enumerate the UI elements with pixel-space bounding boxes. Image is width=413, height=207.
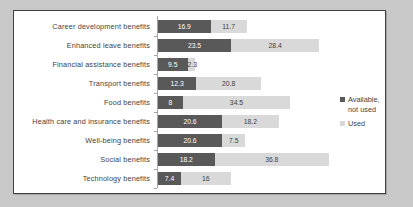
category-label: Financial assistance benefits [14,55,150,74]
bar-value-label: 9.5 [158,58,188,71]
bar-value-label: 16.9 [158,20,211,33]
axis-tick [154,36,157,37]
axis-tick [154,112,157,113]
bar-value-label: 11.7 [211,20,247,33]
bar-segment-used[interactable]: 36.8 [215,153,329,166]
bar-value-label: 7.5 [222,134,245,147]
category-label: Transport benefits [14,74,150,93]
legend-item[interactable]: Available, not used [340,95,386,114]
category-label: Health care and insurance benefits [14,112,150,131]
bar-value-label: 2.3 [188,58,195,71]
bar-segment-used[interactable]: 11.7 [211,20,247,33]
bar-value-label: 23.5 [158,39,231,52]
category-label: Social benefits [14,150,150,169]
legend-item[interactable]: Used [340,119,386,129]
category-label: Food benefits [14,93,150,112]
category-label: Well-being benefits [14,131,150,150]
bar-value-label: 7.4 [158,172,181,185]
bar-segment-available-not-used[interactable]: 9.5 [158,58,188,71]
legend-label: Available, not used [348,95,386,114]
bar-value-label: 20.8 [196,77,261,90]
bar-row: Financial assistance benefits9.52.3 [14,55,385,74]
axis-tick [154,131,157,132]
axis-tick [154,188,157,189]
bar-value-label: 28.4 [231,39,319,52]
bar-row: Health care and insurance benefits20.618… [14,112,385,131]
category-label: Technology benefits [14,169,150,188]
bar-row: Food benefits834.5 [14,93,385,112]
bar-value-label: 36.8 [215,153,329,166]
bar-value-label: 20.6 [158,134,222,147]
bar-row: Social benefits18.236.8 [14,150,385,169]
bar-value-label: 18.2 [222,115,279,128]
bar-segment-used[interactable]: 28.4 [231,39,319,52]
bar-segment-used[interactable]: 20.8 [196,77,261,90]
chart-frame: Career development benefits16.911.7Enhan… [13,10,386,194]
axis-tick [154,93,157,94]
axis-tick [154,74,157,75]
bar-segment-available-not-used[interactable]: 7.4 [158,172,181,185]
plot-area: Career development benefits16.911.7Enhan… [14,11,385,193]
bar-segment-used[interactable]: 7.5 [222,134,245,147]
bar-row: Enhanced leave benefits23.528.4 [14,36,385,55]
bar-segment-available-not-used[interactable]: 18.2 [158,153,215,166]
bar-segment-available-not-used[interactable]: 16.9 [158,20,211,33]
bar-value-label: 20.6 [158,115,222,128]
bar-value-label: 16 [181,172,231,185]
bar-value-label: 8 [158,96,183,109]
bar-segment-available-not-used[interactable]: 8 [158,96,183,109]
chart-legend: Available, not usedUsed [340,95,386,134]
bar-segment-available-not-used[interactable]: 20.6 [158,115,222,128]
bar-row: Well-being benefits20.67.5 [14,131,385,150]
bar-value-label: 12.3 [158,77,196,90]
category-label: Enhanced leave benefits [14,36,150,55]
category-label: Career development benefits [14,17,150,36]
bar-segment-available-not-used[interactable]: 23.5 [158,39,231,52]
bar-value-label: 34.5 [183,96,290,109]
axis-tick [154,169,157,170]
legend-swatch-icon [340,121,345,126]
bar-row: Transport benefits12.320.8 [14,74,385,93]
bar-segment-available-not-used[interactable]: 20.6 [158,134,222,147]
legend-label: Used [348,119,386,129]
bar-segment-used[interactable]: 2.3 [188,58,195,71]
bar-value-label: 18.2 [158,153,215,166]
legend-swatch-icon [340,97,345,102]
bar-segment-used[interactable]: 18.2 [222,115,279,128]
axis-tick [154,55,157,56]
axis-tick [154,150,157,151]
bar-segment-available-not-used[interactable]: 12.3 [158,77,196,90]
bar-row: Career development benefits16.911.7 [14,17,385,36]
bar-row: Technology benefits7.416 [14,169,385,188]
bar-segment-used[interactable]: 16 [181,172,231,185]
bar-segment-used[interactable]: 34.5 [183,96,290,109]
